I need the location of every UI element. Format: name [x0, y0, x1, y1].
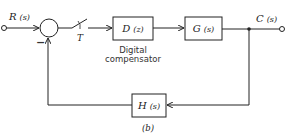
block-diagram: R(s) − T D(z) Digital compensator G(s) C…: [0, 0, 294, 139]
minus-sign: −: [36, 36, 45, 49]
figure-caption: (b): [142, 123, 154, 133]
block-d-label: D(z): [121, 23, 144, 34]
output-terminal: [280, 27, 285, 32]
block-g-label: G(s): [193, 23, 214, 34]
sampler-label: T: [77, 33, 84, 43]
input-terminal: [2, 26, 7, 31]
sampler-arc: [78, 21, 80, 29]
output-label: C(s): [256, 13, 277, 24]
input-label: R(s): [8, 11, 30, 22]
compensator-caption-line2: compensator: [105, 54, 161, 64]
summing-junction: [40, 19, 58, 37]
